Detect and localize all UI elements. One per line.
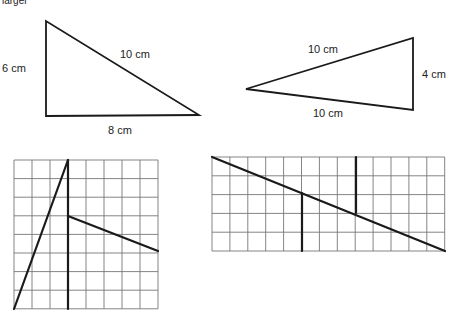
cut-off-heading: larger [2, 0, 28, 6]
triangle-6-8-10: 6 cm 10 cm 8 cm [2, 21, 199, 136]
diagram-canvas: larger 6 cm 10 cm 8 cm 10 cm 4 cm 10 cm [0, 0, 459, 319]
triangle-a-shape [46, 21, 199, 116]
side-label-6cm: 6 cm [2, 62, 26, 74]
grid-b-lines [212, 157, 445, 251]
drawn-segment [68, 216, 158, 251]
side-label-8cm: 8 cm [108, 124, 132, 136]
side-label-10cm-bottom: 10 cm [313, 107, 343, 119]
grid-a [14, 160, 158, 309]
triangle-10-10-4: 10 cm 4 cm 10 cm [246, 38, 446, 119]
drawn-segment [212, 157, 445, 251]
side-label-10cm-top: 10 cm [308, 43, 338, 55]
side-label-10cm: 10 cm [120, 48, 150, 60]
side-label-4cm: 4 cm [422, 68, 446, 80]
